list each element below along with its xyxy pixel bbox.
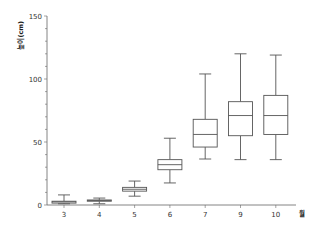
x-tick-label: 3	[62, 211, 66, 219]
y-axis: 050100150	[29, 13, 47, 210]
y-axis-label: 높이(cm)	[16, 21, 25, 50]
y-tick-label: 0	[38, 202, 42, 210]
box-month-7	[193, 74, 217, 159]
box-plot-chart: 050100150 34567910 높이(cm) 월	[0, 0, 312, 229]
box-month-9	[229, 54, 253, 160]
x-tick-label: 9	[238, 211, 242, 219]
y-tick-label: 100	[29, 76, 42, 84]
y-tick-label: 150	[29, 13, 42, 21]
x-tick-label: 6	[168, 211, 173, 219]
x-tick-label: 4	[97, 211, 102, 219]
x-axis-unit-label: 월	[299, 209, 305, 218]
box-month-5	[123, 181, 147, 196]
box-month-6	[158, 138, 182, 183]
box-series	[52, 54, 288, 204]
box-month-10	[264, 55, 288, 160]
x-tick-label: 7	[203, 211, 207, 219]
box-month-3	[52, 195, 76, 204]
x-axis: 34567910	[47, 205, 296, 219]
x-tick-label: 5	[132, 211, 136, 219]
y-tick-label: 50	[33, 139, 42, 147]
x-tick-label: 10	[271, 211, 280, 219]
box-month-4	[87, 198, 111, 204]
